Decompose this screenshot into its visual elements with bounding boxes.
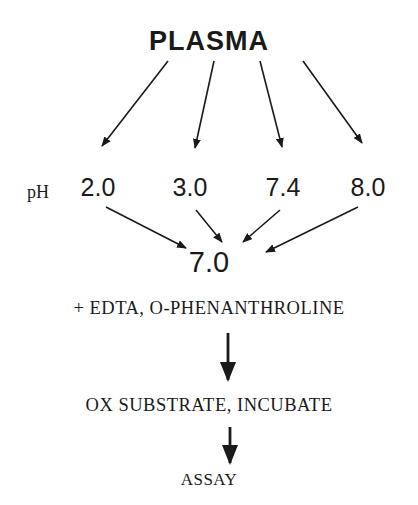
arrow-plasma-to-ph7.4 <box>260 61 282 147</box>
plasma-node: PLASMA <box>0 26 418 57</box>
ph-value-7-4: 7.4 <box>266 173 301 202</box>
arrow-plasma-to-ph3 <box>195 61 214 148</box>
step-assay: ASSAY <box>0 470 418 490</box>
arrow-ph7.4-to-7 <box>243 210 280 242</box>
step-add-inhibitors: + EDTA, O-PHENANTHROLINE <box>0 298 418 319</box>
arrow-ph2-to-7 <box>106 207 186 248</box>
target-ph-node: 7.0 <box>0 246 418 279</box>
ph-value-3: 3.0 <box>173 173 208 202</box>
arrow-plasma-to-ph8 <box>303 61 362 143</box>
ph-value-8: 8.0 <box>351 173 386 202</box>
ph-label: pH <box>27 182 49 203</box>
arrow-ph3-to-7 <box>196 210 222 242</box>
arrow-plasma-to-ph2 <box>102 61 168 146</box>
ph-value-2: 2.0 <box>81 173 116 202</box>
step-substrate-incubate: OX SUBSTRATE, INCUBATE <box>0 395 418 416</box>
